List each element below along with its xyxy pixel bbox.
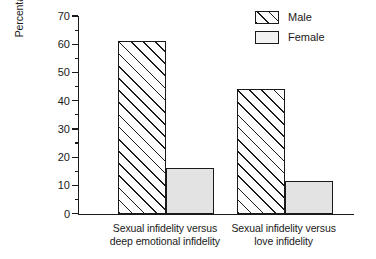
bar-male-group-2 <box>237 89 285 213</box>
bar-male-group-1 <box>118 41 166 213</box>
y-tick-minor <box>75 114 79 115</box>
x-axis-group-label-2-line-2: love infidelity <box>199 235 369 248</box>
solid-swatch-icon <box>255 31 279 44</box>
plot-area: 010203040506070 <box>78 16 354 215</box>
bar-chart-figure: Percentage reporting more distress to se… <box>0 0 376 259</box>
y-tick-label: 10 <box>58 180 70 191</box>
y-tick-major <box>72 185 78 186</box>
y-axis-title-line-1: Percentage reporting more distress <box>13 0 25 37</box>
y-tick-label: 50 <box>58 67 70 78</box>
hatched-swatch-icon <box>255 11 279 24</box>
bar-female-group-2 <box>285 181 333 213</box>
y-tick-major <box>72 72 78 73</box>
legend-label-female: Female <box>288 32 325 43</box>
legend-item-female: Female <box>255 31 325 44</box>
y-axis-title: Percentage reporting more distress to se… <box>8 0 42 52</box>
y-tick-label: 30 <box>58 123 70 134</box>
bar-female-group-1 <box>166 168 214 213</box>
y-tick-label: 20 <box>58 152 70 163</box>
y-tick-major <box>72 15 78 16</box>
y-tick-label: 40 <box>58 95 70 106</box>
y-tick-label: 0 <box>64 208 70 219</box>
y-tick-major <box>72 44 78 45</box>
bar-group-container <box>79 16 354 214</box>
x-axis-group-label-2: Sexual infidelity versuslove infidelity <box>199 222 369 248</box>
legend: Male Female <box>255 11 325 44</box>
legend-label-male: Male <box>288 12 312 23</box>
legend-item-male: Male <box>255 11 325 24</box>
y-tick-label: 70 <box>58 11 70 22</box>
y-tick-minor <box>75 58 79 59</box>
y-tick-minor <box>75 199 79 200</box>
y-tick-minor <box>75 171 79 172</box>
x-axis-group-label-2-line-1: Sexual infidelity versus <box>199 222 369 235</box>
y-tick-major <box>72 100 78 101</box>
y-tick-minor <box>75 86 79 87</box>
x-axis-line <box>78 214 354 215</box>
y-tick-major <box>72 213 78 214</box>
y-tick-minor <box>75 30 79 31</box>
y-tick-major <box>72 128 78 129</box>
y-tick-label: 60 <box>58 39 70 50</box>
y-tick-minor <box>75 142 79 143</box>
y-tick-major <box>72 157 78 158</box>
